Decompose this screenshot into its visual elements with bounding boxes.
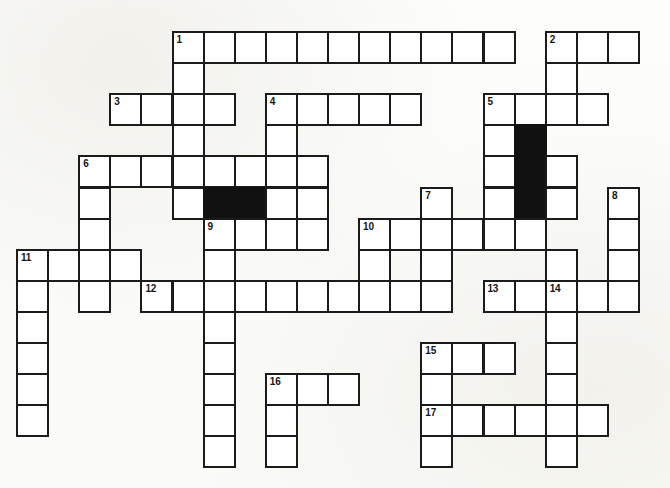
crossword-cell[interactable] xyxy=(514,280,547,313)
crossword-cell[interactable] xyxy=(483,404,516,437)
crossword-cell[interactable] xyxy=(389,93,422,126)
crossword-cell[interactable] xyxy=(451,342,484,375)
crossword-cell[interactable] xyxy=(265,31,298,64)
crossword-cell[interactable] xyxy=(327,373,360,406)
crossword-cell-start-15[interactable]: 15 xyxy=(420,342,453,375)
crossword-cell[interactable] xyxy=(16,311,49,344)
crossword-cell[interactable] xyxy=(265,187,298,220)
crossword-cell[interactable] xyxy=(203,311,236,344)
crossword-cell[interactable] xyxy=(607,280,640,313)
crossword-cell[interactable] xyxy=(545,93,578,126)
crossword-cell[interactable] xyxy=(483,218,516,251)
crossword-cell[interactable] xyxy=(172,187,205,220)
crossword-cell[interactable] xyxy=(545,155,578,188)
crossword-cell-start-9[interactable]: 9 xyxy=(203,218,236,251)
crossword-cell[interactable] xyxy=(265,280,298,313)
crossword-cell[interactable] xyxy=(545,373,578,406)
crossword-cell[interactable] xyxy=(172,124,205,157)
crossword-cell[interactable] xyxy=(451,218,484,251)
crossword-cell[interactable] xyxy=(203,93,236,126)
crossword-cell[interactable] xyxy=(140,93,173,126)
crossword-cell[interactable] xyxy=(358,249,391,282)
crossword-cell-start-14[interactable]: 14 xyxy=(545,280,578,313)
crossword-cell-start-11[interactable]: 11 xyxy=(16,249,49,282)
crossword-cell[interactable] xyxy=(358,93,391,126)
crossword-cell[interactable] xyxy=(389,31,422,64)
crossword-cell[interactable] xyxy=(327,31,360,64)
crossword-cell-start-2[interactable]: 2 xyxy=(545,31,578,64)
crossword-cell[interactable] xyxy=(607,31,640,64)
crossword-cell[interactable] xyxy=(607,249,640,282)
crossword-cell[interactable] xyxy=(78,218,111,251)
crossword-cell[interactable] xyxy=(203,280,236,313)
crossword-cell[interactable] xyxy=(296,373,329,406)
crossword-cell[interactable] xyxy=(389,218,422,251)
crossword-cell-start-16[interactable]: 16 xyxy=(265,373,298,406)
crossword-cell[interactable] xyxy=(576,404,609,437)
crossword-cell[interactable] xyxy=(265,124,298,157)
crossword-cell[interactable] xyxy=(203,249,236,282)
crossword-cell[interactable] xyxy=(234,218,267,251)
crossword-cell[interactable] xyxy=(514,404,547,437)
crossword-cell[interactable] xyxy=(234,155,267,188)
crossword-cell[interactable] xyxy=(78,280,111,313)
crossword-cell[interactable] xyxy=(545,187,578,220)
crossword-cell[interactable] xyxy=(576,93,609,126)
crossword-cell[interactable] xyxy=(265,404,298,437)
crossword-cell[interactable] xyxy=(545,62,578,95)
crossword-cell[interactable] xyxy=(358,280,391,313)
crossword-cell[interactable] xyxy=(545,404,578,437)
crossword-cell[interactable] xyxy=(203,31,236,64)
crossword-cell[interactable] xyxy=(172,280,205,313)
crossword-cell[interactable] xyxy=(545,249,578,282)
crossword-cell[interactable] xyxy=(576,280,609,313)
crossword-cell[interactable] xyxy=(389,280,422,313)
crossword-cell-start-6[interactable]: 6 xyxy=(78,155,111,188)
crossword-cell[interactable] xyxy=(451,404,484,437)
crossword-cell-start-4[interactable]: 4 xyxy=(265,93,298,126)
crossword-cell[interactable] xyxy=(78,187,111,220)
crossword-cell-start-8[interactable]: 8 xyxy=(607,187,640,220)
crossword-cell[interactable] xyxy=(451,31,484,64)
crossword-cell[interactable] xyxy=(234,31,267,64)
crossword-cell[interactable] xyxy=(483,155,516,188)
crossword-grid[interactable]: 1234567891011121314151617 xyxy=(0,0,670,488)
crossword-cell-start-10[interactable]: 10 xyxy=(358,218,391,251)
crossword-cell[interactable] xyxy=(420,435,453,468)
crossword-cell[interactable] xyxy=(576,31,609,64)
crossword-cell[interactable] xyxy=(172,155,205,188)
crossword-cell[interactable] xyxy=(172,93,205,126)
crossword-cell[interactable] xyxy=(420,218,453,251)
crossword-cell[interactable] xyxy=(483,31,516,64)
crossword-cell[interactable] xyxy=(203,435,236,468)
crossword-cell[interactable] xyxy=(296,187,329,220)
crossword-cell[interactable] xyxy=(109,249,142,282)
crossword-cell[interactable] xyxy=(234,280,267,313)
crossword-cell[interactable] xyxy=(545,311,578,344)
crossword-cell[interactable] xyxy=(109,155,142,188)
crossword-cell-start-12[interactable]: 12 xyxy=(140,280,173,313)
crossword-cell[interactable] xyxy=(420,31,453,64)
crossword-cell[interactable] xyxy=(203,373,236,406)
crossword-cell[interactable] xyxy=(16,404,49,437)
crossword-cell-start-3[interactable]: 3 xyxy=(109,93,142,126)
crossword-cell[interactable] xyxy=(483,187,516,220)
crossword-cell[interactable] xyxy=(203,404,236,437)
crossword-cell[interactable] xyxy=(16,373,49,406)
crossword-cell[interactable] xyxy=(358,31,391,64)
crossword-cell[interactable] xyxy=(172,62,205,95)
crossword-cell[interactable] xyxy=(296,280,329,313)
crossword-cell[interactable] xyxy=(327,93,360,126)
crossword-cell[interactable] xyxy=(420,373,453,406)
crossword-cell[interactable] xyxy=(483,342,516,375)
crossword-cell[interactable] xyxy=(420,249,453,282)
crossword-cell[interactable] xyxy=(265,155,298,188)
crossword-cell[interactable] xyxy=(203,342,236,375)
crossword-cell-start-1[interactable]: 1 xyxy=(172,31,205,64)
crossword-cell[interactable] xyxy=(16,342,49,375)
crossword-cell[interactable] xyxy=(514,218,547,251)
crossword-cell[interactable] xyxy=(514,93,547,126)
crossword-cell-start-7[interactable]: 7 xyxy=(420,187,453,220)
crossword-cell[interactable] xyxy=(545,435,578,468)
crossword-cell[interactable] xyxy=(327,280,360,313)
